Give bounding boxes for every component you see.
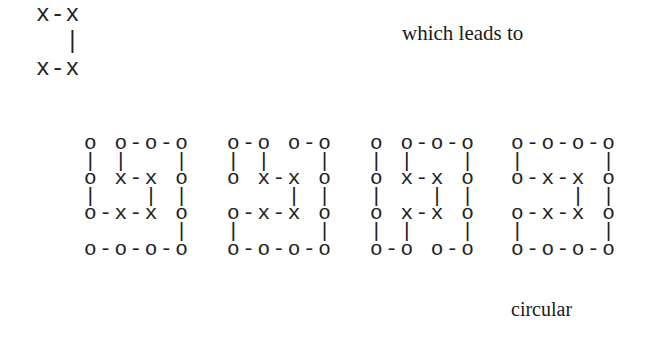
grid-1: o o-o-o| | |o x-x o| | |o-x-x o |o-o-o-o [84,135,190,258]
top-diagram-line: x-x [36,2,80,29]
grid-line: o-o-o-o [227,241,333,259]
grid-3: o o-o-o| | |o x-x o| | |o x-x o| | |o-o … [370,135,476,258]
circular-label: circular [511,298,572,321]
grid-line: o-o o-o [370,241,476,259]
top-diagram-line: | [36,29,80,56]
grid-2: o-o o-o| | |o x-x o | |o-x-x o| |o-o-o-o [227,135,333,258]
lead-text: which leads to [402,21,523,46]
grid-line: o-o-o-o [511,241,617,259]
grid-4: o-o-o-o| |o-x-x o | |o-x-x o| |o-o-o-o [511,135,617,258]
top-diagram-line: x-x [36,56,80,83]
grid-line: o-o-o-o [84,241,190,259]
top-diagram: x-x |x-x [36,2,80,83]
